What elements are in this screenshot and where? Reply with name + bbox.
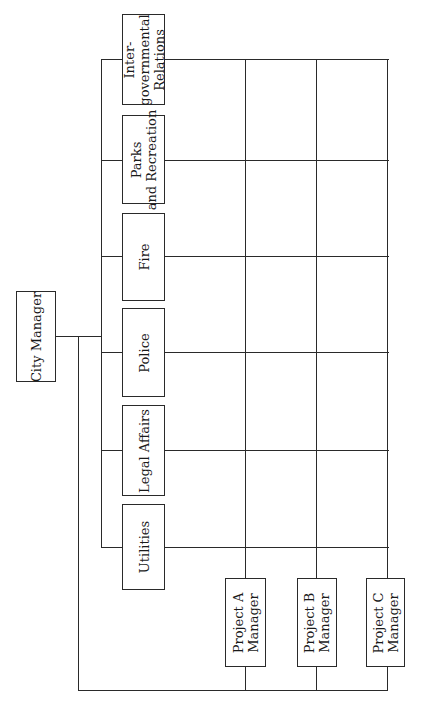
department-bus-line [101, 59, 102, 548]
department-label: Police [136, 333, 151, 372]
department-box-intergovernmental-relations[interactable]: Inter- governmental Relations [122, 14, 165, 105]
project-manager-box-a[interactable]: Project A Manager [225, 578, 266, 667]
city-manager-box[interactable]: City Manager [16, 291, 56, 382]
department-label: Inter- governmental Relations [121, 14, 166, 105]
department-label: Parks and Recreation [129, 109, 159, 210]
connector-line [78, 690, 388, 691]
project-manager-label: Project C Manager [371, 592, 401, 653]
department-box-parks-and-recreation[interactable]: Parks and Recreation [122, 115, 165, 204]
project-manager-box-b[interactable]: Project B Manager [297, 578, 337, 667]
department-box-fire[interactable]: Fire [122, 213, 165, 301]
project-manager-label: Project A Manager [231, 592, 261, 653]
project-bus-line [78, 336, 79, 691]
department-label: Fire [136, 243, 151, 270]
project-manager-label: Project B Manager [302, 592, 332, 653]
department-box-legal-affairs[interactable]: Legal Affairs [122, 405, 165, 496]
department-box-police[interactable]: Police [122, 308, 165, 397]
department-box-utilities[interactable]: Utilities [122, 504, 165, 590]
department-label: Utilities [136, 521, 151, 573]
matrix-org-chart: City Manager Inter- governmental Relatio… [0, 0, 427, 725]
department-label: Legal Affairs [136, 409, 151, 493]
project-manager-box-c[interactable]: Project C Manager [366, 578, 405, 667]
city-manager-label: City Manager [29, 291, 44, 381]
